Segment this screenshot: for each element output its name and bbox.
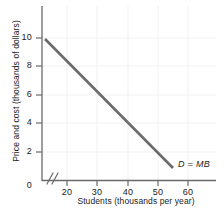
demand-curve-label: D = MB <box>178 159 210 169</box>
chart-figure: 10 8 6 4 2 0 20 30 40 50 60 Price and co… <box>0 0 224 212</box>
axis-break-mark <box>47 173 58 184</box>
gridlines-horizontal <box>42 38 216 152</box>
gridlines-vertical <box>67 6 188 180</box>
y-axis-ticks <box>36 38 42 152</box>
y-axis-title: Price and cost (thousands of dollars) <box>11 7 21 175</box>
plot-area <box>0 0 224 212</box>
x-axis-title: Students (thousands per year) <box>48 196 224 206</box>
demand-curve-line <box>45 39 173 168</box>
origin-label: 0 <box>14 180 32 190</box>
